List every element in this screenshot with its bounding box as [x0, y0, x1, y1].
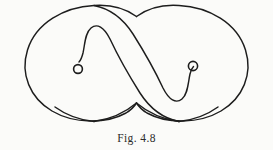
right-lobe-outer-arc	[137, 5, 248, 121]
figure-page: Fig. 4.8	[0, 0, 273, 150]
left-lobe-outer-arc	[25, 5, 136, 121]
descending-diagonal-strand-right	[94, 6, 194, 102]
curve-diagram	[0, 0, 273, 132]
ascending-diagonal-strand-left	[79, 26, 179, 122]
figure-caption: Fig. 4.8	[0, 131, 273, 145]
left-spiral-endpoint-circle	[74, 65, 83, 74]
bottom-middle-right-arc	[94, 103, 137, 122]
